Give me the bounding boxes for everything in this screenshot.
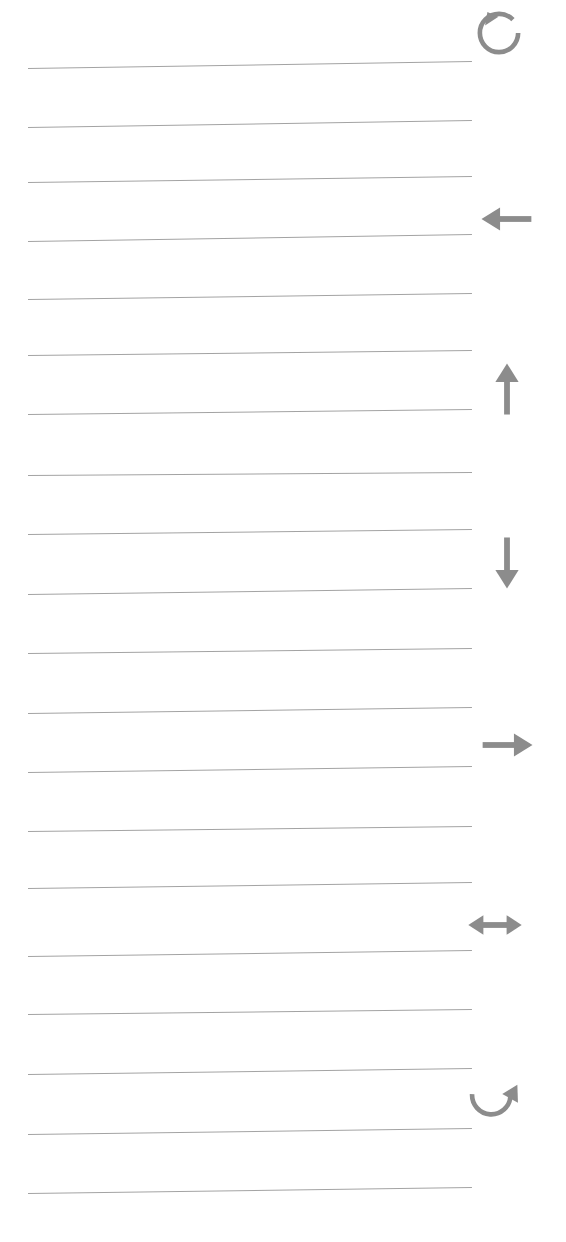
arrow-up-icon[interactable] [478,360,536,418]
rule-line-19 [28,1128,472,1135]
arrow-down-icon[interactable] [478,534,536,592]
rule-line-6 [28,350,472,356]
rotate-clockwise-icon[interactable] [464,1072,522,1130]
rotate-counterclockwise-icon[interactable] [470,4,528,62]
rule-line-11 [28,648,472,654]
rule-line-14 [28,826,472,832]
arrow-right-icon[interactable] [478,716,536,774]
rule-line-1 [28,61,472,69]
lined-paper-sheet [0,0,566,1242]
rule-line-8 [28,472,472,476]
rule-line-4 [28,234,472,242]
arrow-left-right-icon[interactable] [466,896,524,954]
rule-line-5 [28,293,472,300]
rule-line-16 [28,950,472,957]
rule-line-17 [28,1009,472,1015]
rule-line-18 [28,1068,472,1075]
rule-line-13 [28,766,472,773]
rule-line-20 [28,1187,472,1194]
arrow-left-icon[interactable] [478,190,536,248]
rule-line-15 [28,882,472,889]
rule-line-3 [28,176,472,183]
rule-line-2 [28,120,472,128]
rule-line-12 [28,707,472,714]
rule-line-10 [28,588,472,595]
rule-line-9 [28,529,472,535]
rule-line-7 [28,409,472,415]
